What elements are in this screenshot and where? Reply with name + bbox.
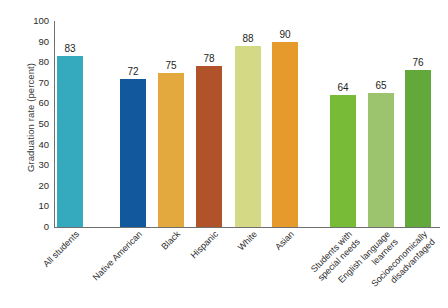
y-axis-title: Graduation rate (percent): [25, 18, 36, 218]
x-axis-label-line1: White: [236, 229, 259, 252]
y-tick-label: 100: [33, 16, 49, 26]
y-tick-label: 60: [38, 99, 49, 109]
x-axis-label-line1: Asian: [273, 229, 296, 252]
y-axis-line: [54, 21, 55, 227]
x-axis-label: All students: [41, 229, 81, 269]
bar-value-label: 64: [337, 83, 348, 93]
bar: 88: [235, 46, 261, 227]
bar-chart: Graduation rate (percent) 10090807060504…: [0, 0, 448, 308]
x-axis-label: Black: [159, 229, 182, 252]
x-axis-label: Hispanic: [189, 229, 221, 261]
y-tick-label: 80: [38, 57, 49, 67]
bar: 90: [272, 42, 298, 227]
bar: 65: [368, 93, 394, 227]
bar: 83: [57, 56, 83, 227]
bar: 75: [158, 73, 184, 228]
plot-area: 1009080706050403020100 83727578889064657…: [54, 21, 440, 227]
bar: 72: [120, 79, 146, 227]
bar: 76: [405, 70, 431, 227]
y-tick-label: 50: [38, 119, 49, 129]
x-axis-line: [54, 227, 440, 228]
y-tick-label: 40: [38, 140, 49, 150]
bar-value-label: 65: [375, 81, 386, 91]
x-axis-label-line1: All students: [41, 229, 81, 269]
y-tick-label: 20: [38, 181, 49, 191]
x-axis-label-line1: Native American: [91, 229, 144, 282]
y-tick-label: 30: [38, 160, 49, 170]
bar: 64: [330, 95, 356, 227]
bar: 78: [196, 66, 222, 227]
x-axis-label: White: [236, 229, 260, 253]
x-axis-label: Asian: [273, 229, 296, 252]
y-tick-label: 0: [44, 222, 49, 232]
bar-value-label: 78: [203, 54, 214, 64]
x-axis-label: Native American: [91, 229, 145, 283]
bar-value-label: 88: [242, 34, 253, 44]
bar-value-label: 90: [279, 30, 290, 40]
y-tick-label: 90: [38, 37, 49, 47]
y-tick-label: 70: [38, 78, 49, 88]
bar-value-label: 76: [412, 58, 423, 68]
y-tick-label: 10: [38, 202, 49, 212]
x-axis-label-line1: Black: [159, 229, 182, 252]
bar-value-label: 83: [64, 44, 75, 54]
bar-value-label: 75: [165, 61, 176, 71]
bar-value-label: 72: [127, 67, 138, 77]
x-axis-label-line1: Hispanic: [189, 229, 220, 260]
